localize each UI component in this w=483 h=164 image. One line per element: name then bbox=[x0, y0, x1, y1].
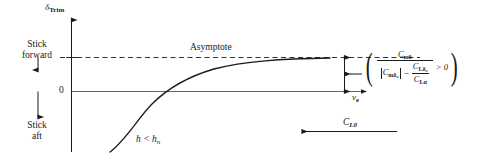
inner-fraction-numerator: CLδe bbox=[411, 61, 430, 73]
minus-operator: − bbox=[402, 68, 411, 78]
y-axis-label: δTrim bbox=[45, 2, 64, 15]
left-paren: ( bbox=[366, 53, 373, 80]
stick-forward-line1: Stick bbox=[27, 39, 47, 49]
right-paren: ) bbox=[451, 53, 458, 80]
abs-bar-left bbox=[381, 68, 382, 79]
stick-aft-line1: Stick bbox=[27, 120, 47, 130]
stick-forward-label: Stick forward bbox=[9, 39, 65, 60]
x-axis-subscript: e bbox=[356, 96, 359, 103]
h-condition-subscript: n bbox=[157, 138, 161, 146]
cldelta-symbol: CLδe bbox=[413, 61, 428, 71]
stick-forward-line2: forward bbox=[22, 50, 52, 60]
fraction-denominator: Cmδe − CLδe CLα bbox=[377, 60, 433, 85]
cl0-subscript: L0 bbox=[349, 121, 357, 129]
clalpha-symbol: CLα bbox=[414, 74, 427, 84]
x-axis-label: ve bbox=[352, 92, 359, 103]
origin-label: 0 bbox=[59, 85, 64, 96]
stick-aft-label: Stick aft bbox=[9, 120, 65, 141]
cmdelta-symbol: Cmδe bbox=[383, 67, 399, 79]
cm0-symbol: Cm0 bbox=[398, 49, 412, 59]
trim-curve-figure: δTrim ve 0 Stick forward Stick aft Asymp… bbox=[0, 0, 483, 164]
h-condition-label: h < hn bbox=[136, 134, 160, 147]
comparison-operator: > 0 bbox=[434, 62, 448, 72]
y-axis-subscript: Trim bbox=[49, 6, 64, 14]
abs-bar-right bbox=[400, 68, 401, 79]
inner-fraction-denominator: CLα bbox=[412, 73, 429, 85]
inner-fraction: CLδe CLα bbox=[411, 61, 430, 85]
absolute-value-group: Cmδe bbox=[380, 67, 402, 79]
expression-fraction: Cm0 Cmδe − CLδe CLα bbox=[377, 49, 433, 85]
asymptote-label: Asymptote bbox=[190, 42, 232, 53]
stick-aft-line2: aft bbox=[32, 131, 42, 141]
cl0-label: CL0 bbox=[343, 117, 357, 130]
fraction-numerator: Cm0 bbox=[395, 49, 415, 60]
trim-offset-expression: ( Cm0 Cmδe − CLδe CLα bbox=[363, 49, 461, 85]
